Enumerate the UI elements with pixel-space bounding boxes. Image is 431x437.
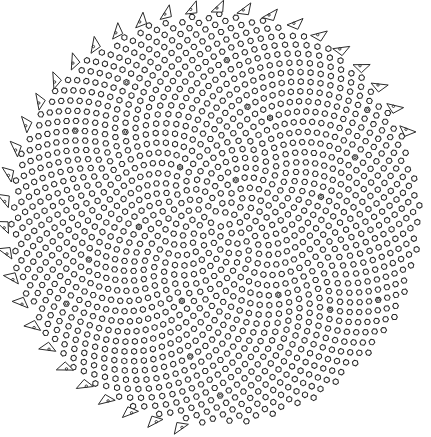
bract-icon xyxy=(136,12,147,28)
bract-icon xyxy=(98,395,115,405)
rim-bracts xyxy=(0,0,416,434)
bract-icon xyxy=(39,342,56,351)
bract-icon xyxy=(333,46,350,55)
bract-icon xyxy=(53,72,62,89)
bract-icon xyxy=(311,31,328,41)
bract-icon xyxy=(76,379,93,388)
bract-icon xyxy=(0,194,9,207)
bract-icon xyxy=(12,297,28,308)
floret-disc xyxy=(0,0,431,437)
bract-icon xyxy=(211,0,224,12)
bract-icon xyxy=(71,53,80,70)
floret-cells xyxy=(9,12,422,426)
bract-icon xyxy=(24,321,41,331)
bract-icon xyxy=(185,1,197,14)
bract-icon xyxy=(3,273,18,284)
bract-icon xyxy=(160,5,171,20)
bract-icon xyxy=(113,23,123,39)
bract-icon xyxy=(0,222,9,234)
floret-cell-mesh xyxy=(9,12,422,426)
sunflower-phyllotaxis-diagram xyxy=(0,0,431,437)
bract-icon xyxy=(36,93,46,110)
